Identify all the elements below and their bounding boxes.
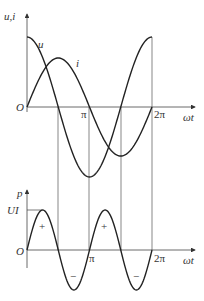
sign-minus-1: − [70, 270, 76, 282]
sign-plus-2: + [101, 220, 107, 232]
top-tick-pi: π [81, 108, 87, 120]
u-label: u [38, 38, 44, 50]
bottom-tick-2pi: 2π [154, 252, 166, 264]
bottom-origin-label: O [16, 245, 24, 257]
sign-plus-1: + [39, 220, 45, 232]
sign-minus-2: − [133, 270, 139, 282]
top-origin-label: O [16, 101, 24, 113]
bottom-x-label: ωt [183, 254, 195, 266]
top-tick-2pi: 2π [154, 108, 166, 120]
bottom-tick-pi: π [89, 252, 95, 264]
i-label: i [76, 57, 79, 69]
top-y-label: u,i [4, 10, 15, 22]
ui-tick-label: UI [7, 204, 20, 216]
waveform-diagram: u,i u i O π 2π ωt p UI O π 2π ωt + − + − [0, 0, 204, 301]
top-x-label: ωt [183, 111, 195, 123]
bottom-y-label: p [16, 187, 23, 199]
